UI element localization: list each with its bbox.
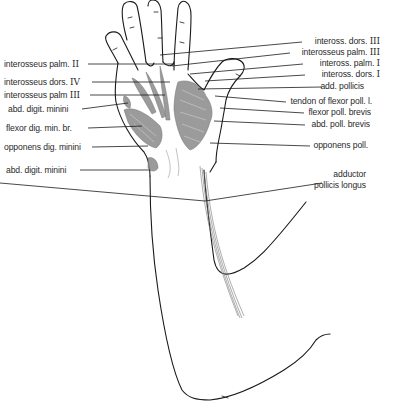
label-flexor-dig-min-br: flexor dig. min. br. (6, 123, 72, 133)
label-abd-digit-minini-lower: abd. digit. minini (6, 165, 66, 175)
label-abd-poll-brevis: abd. poll. brevis (312, 119, 371, 129)
label-inteross-dors-1: inteross. dors. I (322, 69, 380, 79)
label-abd-digit-minini-upper: abd. digit. minini (8, 104, 68, 114)
arm-outline (106, 0, 330, 400)
label-inteross-palm-1: inteross. palm. I (320, 58, 380, 68)
label-interosseus-palm-3-right: interosseus palm. III (302, 47, 380, 57)
label-tendon-flexor-poll-l: tendon of flexor poll. l. (290, 96, 372, 106)
label-interosseus-dors-4: interosseus dors. IV (4, 77, 80, 87)
wrist-tendons (166, 148, 179, 178)
label-flexor-poll-brevis: flexor poll. brevis (308, 107, 371, 117)
label-inteross-dors-3: inteross. dors. III (315, 36, 380, 46)
label-opponens-dig-minini: opponens dig. minini (4, 142, 81, 152)
label-adductor-pollicis-longus: adductor pollicis longus (314, 169, 366, 191)
label-opponens-poll: opponens poll. (313, 140, 368, 150)
forearm-muscle (200, 166, 244, 318)
label-interosseus-palm-2: interosseus palm. II (4, 59, 79, 69)
label-add-pollicis: add. pollicis (320, 81, 364, 91)
label-interosseus-palm-3: interosseus palm III (4, 90, 80, 100)
